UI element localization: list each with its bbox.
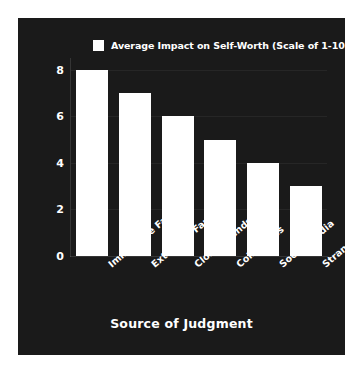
x-axis-tick-label: Colleagues xyxy=(234,261,241,269)
legend-color-swatch xyxy=(93,40,104,51)
y-axis-tick-label: 4 xyxy=(56,157,64,168)
x-axis-tick-label: Social Media xyxy=(277,261,284,269)
y-axis-tick-label: 2 xyxy=(56,204,64,215)
chart-panel: Average Impact on Self-Worth (Scale of 1… xyxy=(18,18,345,355)
y-axis-tick-label: 0 xyxy=(56,251,64,262)
gridline xyxy=(71,70,327,71)
gridline xyxy=(71,163,327,164)
y-axis-tick-label: 6 xyxy=(56,111,64,122)
x-axis-tick-label: Close Friends xyxy=(192,261,199,269)
gridline xyxy=(71,209,327,210)
gridline xyxy=(71,116,327,117)
y-axis-tick-label: 8 xyxy=(56,64,64,75)
chart-figure: Average Impact on Self-Worth (Scale of 1… xyxy=(0,0,363,374)
x-axis-tick-label: Strangers xyxy=(320,261,327,269)
x-axis-tick-label: Extended Family xyxy=(149,261,156,269)
x-axis-title: Source of Judgment xyxy=(18,316,345,331)
x-axis-tick-label: Immediate Family xyxy=(106,261,113,269)
legend-entry-label: Average Impact on Self-Worth (Scale of 1… xyxy=(111,40,345,51)
y-axis-tick-labels: 02468 xyxy=(38,58,64,256)
chart-legend: Average Impact on Self-Worth (Scale of 1… xyxy=(93,40,345,51)
bar[interactable] xyxy=(76,70,108,256)
